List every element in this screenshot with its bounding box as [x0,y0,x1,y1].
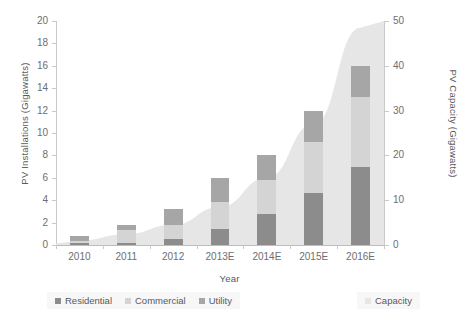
legend-swatch-utility [199,298,205,304]
installations-legend: Residential Commercial Utility [47,292,240,309]
y-tick-label-left-2: 2 [8,217,48,228]
legend-item-commercial[interactable]: Commercial [125,295,186,306]
y-tick-left [52,66,56,67]
x-axis-line [56,245,385,246]
bar-segment-utility-2013E [211,178,230,203]
legend-swatch-commercial [125,298,131,304]
y-tick-left [52,88,56,89]
x-tick [197,245,198,249]
y-tick-label-left-10: 10 [8,127,48,138]
x-tick [384,245,385,249]
bar-2014E[interactable] [257,155,276,245]
y-axis-right-line [384,21,385,245]
bar-segment-residential-2014E [257,214,276,245]
bar-2011[interactable] [117,225,136,245]
y-tick-right [385,200,389,201]
x-tick-label-2016E: 2016E [331,251,391,262]
pv-installations-chart: PV Installations (Gigawatts) PV Capacity… [0,0,459,324]
y-tick-right [385,21,389,22]
y-tick-label-left-8: 8 [8,149,48,160]
bar-2010[interactable] [70,236,89,245]
y-tick-left [52,21,56,22]
y-tick-right [385,155,389,156]
bar-segment-residential-2013E [211,229,230,245]
bar-segment-utility-2010 [70,236,89,240]
x-axis-title: Year [0,273,459,284]
legend-swatch-residential [55,298,61,304]
y-tick-left [52,178,56,179]
bar-segment-utility-2012 [164,209,183,225]
y-tick-left [52,223,56,224]
legend-item-utility[interactable]: Utility [199,295,232,306]
y-tick-label-left-20: 20 [8,15,48,26]
y-tick-left [52,155,56,156]
bar-2013E[interactable] [211,178,230,245]
y-tick-label-left-4: 4 [8,194,48,205]
y-tick-label-right-50: 50 [393,15,433,26]
x-tick [150,245,151,249]
x-tick [243,245,244,249]
y-tick-label-right-10: 10 [393,194,433,205]
bar-segment-commercial-2012 [164,225,183,240]
bar-segment-utility-2016E [351,66,370,97]
bar-segment-commercial-2014E [257,180,276,214]
bar-segment-utility-2011 [117,225,136,231]
bar-segment-commercial-2010 [70,241,89,244]
bar-segment-utility-2014E [257,155,276,180]
y-tick-left [52,111,56,112]
x-tick [290,245,291,249]
y-tick-right [385,66,389,67]
bar-segment-commercial-2011 [117,230,136,242]
x-tick [337,245,338,249]
legend-label-utility: Utility [209,295,232,306]
x-tick [103,245,104,249]
legend-label-commercial: Commercial [135,295,186,306]
legend-swatch-capacity [365,298,371,304]
bar-2012[interactable] [164,209,183,245]
y-tick-right [385,111,389,112]
bar-segment-utility-2015E [304,111,323,142]
x-tick [56,245,57,249]
y-tick-label-left-18: 18 [8,37,48,48]
bar-segment-residential-2016E [351,167,370,245]
bar-segment-commercial-2016E [351,97,370,166]
y-tick-label-right-40: 40 [393,60,433,71]
y-tick-label-left-14: 14 [8,82,48,93]
y-tick-label-right-0: 0 [393,239,433,250]
y-tick-label-left-0: 0 [8,239,48,250]
bar-2016E[interactable] [351,66,370,245]
y-tick-label-left-16: 16 [8,60,48,71]
y-axis-left-line [56,21,57,245]
legend-label-residential: Residential [65,295,112,306]
y-tick-left [52,133,56,134]
bar-segment-residential-2010 [70,243,89,245]
bar-segment-commercial-2015E [304,142,323,194]
legend-item-capacity[interactable]: Capacity [365,295,412,306]
bar-segment-residential-2015E [304,193,323,245]
legend-item-residential[interactable]: Residential [55,295,112,306]
y-tick-right [385,245,389,246]
y-tick-label-right-30: 30 [393,105,433,116]
legend-label-capacity: Capacity [375,295,412,306]
bar-segment-residential-2011 [117,243,136,245]
plot-area: 0246810121416182001020304050201020112012… [56,21,384,245]
bar-segment-residential-2012 [164,239,183,245]
bar-segment-commercial-2013E [211,202,230,229]
y-tick-label-right-20: 20 [393,149,433,160]
y-tick-left [52,200,56,201]
y-tick-label-left-6: 6 [8,172,48,183]
y-axis-right-title: PV Capacity (Gigawatts) [448,39,459,209]
capacity-legend: Capacity [357,292,420,309]
bar-2015E[interactable] [304,111,323,245]
y-tick-label-left-12: 12 [8,105,48,116]
y-tick-left [52,43,56,44]
